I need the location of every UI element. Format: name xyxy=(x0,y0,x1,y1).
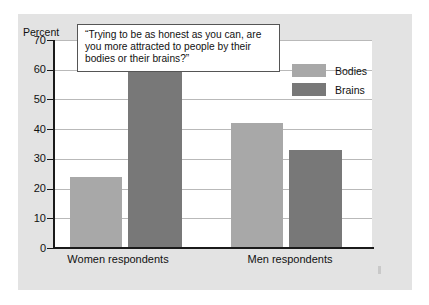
legend-item-brains: Brains xyxy=(292,83,367,96)
bar-men-bodies xyxy=(231,123,283,248)
y-axis-title: Percent xyxy=(23,26,59,38)
legend-item-bodies: Bodies xyxy=(292,64,367,77)
x-axis-line xyxy=(53,247,374,249)
legend-swatch-brains xyxy=(292,83,326,96)
y-tick-label: 40 xyxy=(20,124,46,135)
y-tick xyxy=(47,99,53,100)
x-category-label-men: Men respondents xyxy=(230,253,350,265)
y-tick xyxy=(47,248,53,249)
y-tick xyxy=(47,218,53,219)
y-tick-label: 60 xyxy=(20,64,46,75)
legend-swatch-bodies xyxy=(292,64,326,77)
y-tick-label: 0 xyxy=(20,243,46,254)
bar-women-bodies xyxy=(70,177,122,248)
legend-label-bodies: Bodies xyxy=(335,65,367,77)
bar-men-brains xyxy=(289,150,342,248)
y-tick xyxy=(47,40,53,41)
y-tick xyxy=(47,70,53,71)
y-tick xyxy=(47,159,53,160)
x-category-label-women: Women respondents xyxy=(53,253,183,265)
chart-figure: 70 60 50 40 30 20 10 0 Percent Women res… xyxy=(0,0,429,305)
y-tick-label: 20 xyxy=(20,183,46,194)
y-axis-tick-labels: 70 60 50 40 30 20 10 0 xyxy=(14,0,46,305)
y-tick xyxy=(47,189,53,190)
page-speck-artifact xyxy=(378,266,381,274)
chart-legend: Bodies Brains xyxy=(292,64,367,102)
y-tick-label: 50 xyxy=(20,94,46,105)
y-tick-label: 10 xyxy=(20,213,46,224)
y-tick-label: 30 xyxy=(20,153,46,164)
chart-question-callout: “Trying to be as honest as you can, are … xyxy=(77,24,280,72)
legend-label-brains: Brains xyxy=(335,84,365,96)
y-axis-line xyxy=(53,40,55,249)
y-tick xyxy=(47,129,53,130)
bar-women-brains xyxy=(128,70,182,248)
